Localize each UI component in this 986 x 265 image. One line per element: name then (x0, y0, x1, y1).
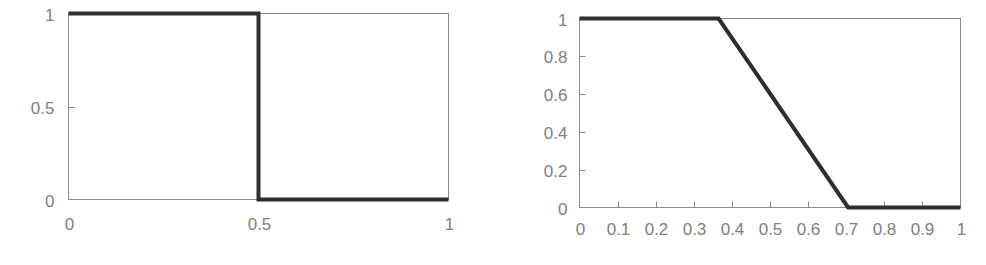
left-x-tick-labels: 00.51 (65, 215, 454, 234)
left-y-tick-labels: 00.51 (31, 6, 55, 211)
right-x-tick-label: 0.6 (797, 220, 821, 239)
left-y-tick-label: 0.5 (31, 99, 55, 118)
right-y-tick-label: 0.4 (544, 124, 568, 143)
right-x-tick-label: 0.3 (683, 220, 707, 239)
left-chart-plot: 00.51 00.51 (0, 0, 493, 265)
right-plot-frame (580, 19, 961, 208)
left-x-tick-label: 1 (445, 215, 454, 234)
right-chart-plot: 00.20.40.60.81 00.10.20.30.40.50.60.70.8… (493, 0, 986, 265)
right-x-tick-label: 1 (957, 220, 966, 239)
left-chart-series-line (69, 14, 449, 200)
right-y-tick-label: 0.6 (544, 86, 568, 105)
right-x-tick-label: 0.5 (759, 220, 783, 239)
chart-figure: 00.51 00.51 00.20.40.60.81 00.10.20.30.4… (0, 0, 986, 265)
right-y-tick-label: 0.8 (544, 48, 568, 67)
right-y-tick-label: 1 (558, 11, 567, 30)
right-x-tick-label: 0.4 (721, 220, 745, 239)
right-x-tick-label: 0.2 (645, 220, 669, 239)
right-y-tick-label: 0 (558, 200, 567, 219)
left-x-tick-label: 0.5 (248, 215, 272, 234)
right-x-tick-label: 0.9 (911, 220, 935, 239)
left-x-tick-label: 0 (65, 215, 74, 234)
left-y-tick-label: 0 (45, 192, 54, 211)
left-y-tick-label: 1 (45, 6, 54, 25)
right-x-tick-label: 0.7 (835, 220, 859, 239)
right-x-tick-label: 0 (576, 220, 585, 239)
right-y-tick-label: 0.2 (544, 162, 568, 181)
right-y-tick-labels: 00.20.40.60.81 (544, 11, 568, 219)
right-x-tick-labels: 00.10.20.30.40.50.60.70.80.91 (576, 220, 966, 239)
left-chart-panel: 00.51 00.51 (0, 0, 493, 265)
right-x-tick-label: 0.8 (873, 220, 897, 239)
right-chart-axes (580, 19, 961, 208)
right-y-tick-marks (580, 57, 586, 171)
right-x-tick-label: 0.1 (607, 220, 631, 239)
right-chart-series-line (580, 19, 961, 208)
right-chart-panel: 00.20.40.60.81 00.10.20.30.40.50.60.70.8… (493, 0, 986, 265)
